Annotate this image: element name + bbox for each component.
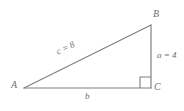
hypotenuse-line <box>24 25 151 88</box>
side-label-a: a = 4 <box>157 51 177 60</box>
vertex-label-a: A <box>11 80 17 90</box>
vertex-label-c: C <box>154 82 161 92</box>
vertex-label-b: B <box>153 9 159 19</box>
side-label-b: b <box>85 92 90 101</box>
right-angle-marker-icon <box>140 77 151 88</box>
right-triangle-figure: A B C a = 4 b c = 8 <box>0 0 184 111</box>
